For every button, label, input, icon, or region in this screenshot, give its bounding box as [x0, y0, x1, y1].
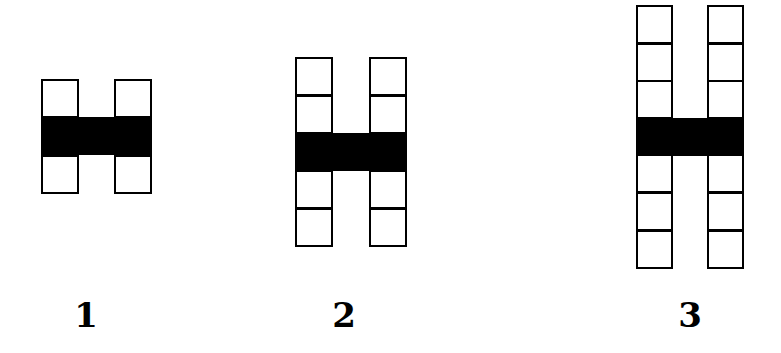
square-cell	[636, 43, 673, 82]
square-cell	[114, 79, 152, 118]
square-cell	[636, 5, 673, 44]
black-crossbar	[636, 118, 744, 156]
figure-2-label: 2	[314, 298, 374, 332]
square-cell	[369, 95, 407, 134]
square-cell	[41, 155, 79, 194]
square-cell	[114, 155, 152, 194]
square-cell	[707, 43, 744, 82]
square-cell	[369, 170, 407, 209]
figure-1-label: 1	[56, 298, 116, 332]
square-cell	[295, 95, 333, 134]
square-cell	[707, 154, 744, 193]
figure-3-label: 3	[660, 298, 720, 332]
square-cell	[707, 80, 744, 119]
black-crossbar	[295, 133, 407, 171]
square-cell	[295, 170, 333, 209]
black-crossbar	[41, 117, 152, 155]
square-cell	[636, 154, 673, 193]
square-cell	[41, 79, 79, 118]
square-cell	[369, 208, 407, 247]
square-cell	[369, 57, 407, 96]
square-cell	[295, 208, 333, 247]
square-cell	[707, 5, 744, 44]
square-cell	[636, 230, 673, 269]
square-cell	[636, 192, 673, 231]
square-cell	[636, 80, 673, 119]
square-cell	[707, 192, 744, 231]
square-cell	[707, 230, 744, 269]
square-cell	[295, 57, 333, 96]
